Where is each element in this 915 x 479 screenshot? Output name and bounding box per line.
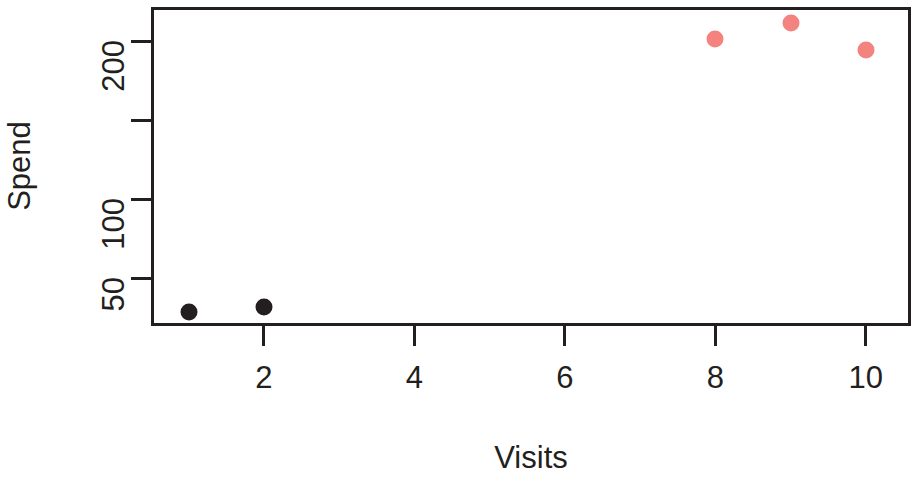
x-axis-tick-label: 6 [525,360,605,396]
x-axis-tick [563,326,566,346]
data-point [255,299,272,316]
x-axis-tick [714,326,717,346]
y-axis-tick-label-text: 100 [96,198,132,250]
y-axis-tick-label: 200 [0,22,120,58]
data-point [857,41,874,58]
x-axis-tick [864,326,867,346]
y-axis-tick [131,277,151,280]
data-point [782,14,799,31]
x-axis-tick [413,326,416,346]
x-axis-title: Visits [0,440,915,476]
y-axis-tick-label-text: 200 [96,40,132,92]
x-axis-tick-label: 10 [826,360,906,396]
x-axis-tick-label: 4 [374,360,454,396]
y-axis-tick-label-text: 50 [96,277,132,311]
x-axis-tick-label: 8 [675,360,755,396]
plot-frame [151,7,911,326]
y-axis-title: Spend [2,106,38,226]
x-axis-tick-label: 2 [224,360,304,396]
y-axis-tick-label: 50 [0,259,120,295]
data-point [180,303,197,320]
data-point [707,30,724,47]
y-axis-tick [131,119,151,122]
x-axis-tick [262,326,265,346]
y-axis-tick [131,40,151,43]
y-axis-tick [131,198,151,201]
